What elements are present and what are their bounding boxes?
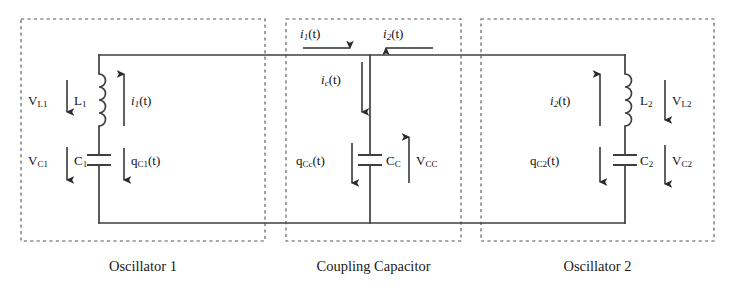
box-coupling-capacitor <box>286 19 461 241</box>
box-oscillator-2 <box>481 19 714 241</box>
label-ic: ic(t) <box>321 72 341 88</box>
label-q-c2: qC2(t) <box>530 153 559 169</box>
label-i2-top: i2(t) <box>383 26 403 42</box>
label-i2-branch: i2(t) <box>550 93 570 109</box>
label-v-c2: VC2 <box>672 153 692 169</box>
label-c1: C1 <box>74 153 87 169</box>
box-oscillator-1 <box>21 19 265 241</box>
label-i1-branch: i1(t) <box>131 93 151 109</box>
circuit-diagram: VL1 L1 i1(t) VC1 C1 qC1(t) i1(t) i2(t) i… <box>0 0 740 291</box>
label-i1-top: i1(t) <box>300 26 320 42</box>
label-c2: C2 <box>640 153 653 169</box>
schematic-canvas <box>0 0 740 291</box>
label-cc: CC <box>386 153 401 169</box>
label-q-c1: qC1(t) <box>131 153 160 169</box>
inductor-l1-coil <box>99 74 106 126</box>
section-boxes <box>21 19 714 241</box>
label-v-l1: VL1 <box>28 93 47 109</box>
label-v-c1: VC1 <box>28 153 48 169</box>
caption-oscillator-1: Oscillator 1 <box>21 258 265 275</box>
label-l1: L1 <box>74 93 86 109</box>
label-l2: L2 <box>640 93 652 109</box>
caption-oscillator-2: Oscillator 2 <box>481 258 714 275</box>
label-v-l2: VL2 <box>672 93 691 109</box>
inductor-l2-coil <box>625 74 632 126</box>
label-v-cc: VCC <box>416 153 437 169</box>
label-q-cc: qCc(t) <box>296 153 325 169</box>
caption-coupling-capacitor: Coupling Capacitor <box>286 258 461 275</box>
